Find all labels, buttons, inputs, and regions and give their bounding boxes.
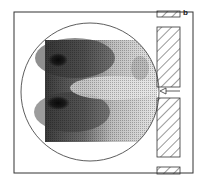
hatched-block-bottom-small (157, 167, 180, 174)
panel-label: b (183, 9, 188, 17)
hatched-block-upper (157, 27, 180, 87)
density-map (34, 38, 160, 142)
hatched-block-top-small (157, 11, 180, 17)
hatched-block-lower (157, 98, 180, 157)
inlet-arrow-left-icon (160, 88, 180, 94)
figure-diagram (0, 0, 207, 187)
